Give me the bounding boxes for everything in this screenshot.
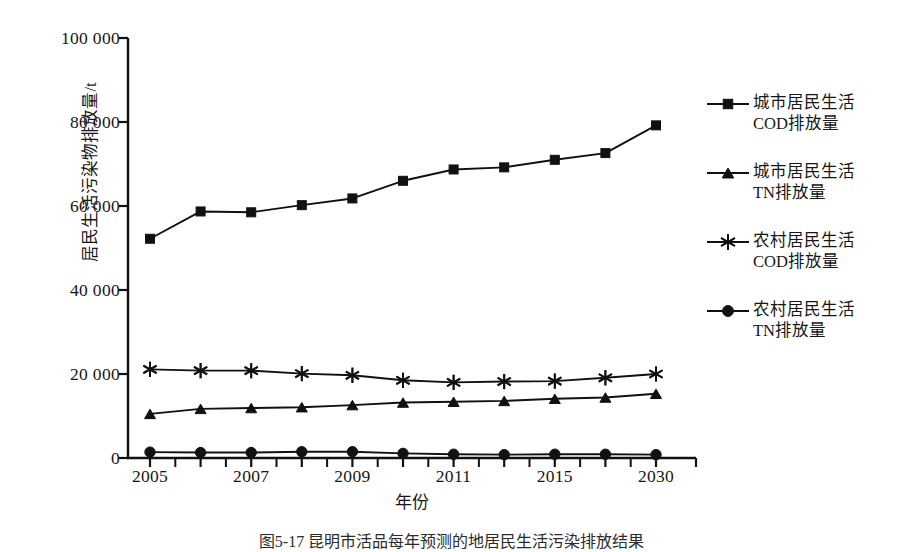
marker-square (449, 165, 458, 174)
marker-square (297, 201, 306, 210)
marker-circle (347, 447, 357, 457)
marker-square (601, 149, 610, 158)
legend-marker-star-icon (706, 232, 750, 252)
marker-square (146, 234, 155, 243)
axis-spine (128, 38, 696, 458)
legend-marker-square-icon (706, 94, 750, 114)
marker-circle (246, 447, 256, 457)
x-axis-tick-label: 2007 (233, 466, 269, 487)
x-axis-tick-label: 2015 (537, 466, 573, 487)
marker-circle (600, 449, 610, 459)
y-axis-tick-label: 100 000 (61, 28, 120, 49)
series-2 (145, 389, 662, 419)
marker-circle (651, 449, 661, 459)
marker-circle (448, 449, 458, 459)
chart-legend: 城市居民生活 COD排放量城市居民生活 TN排放量农村居民生活 COD排放量农村… (706, 92, 902, 368)
x-axis-tick-label: 2030 (638, 466, 674, 487)
marker-circle (550, 449, 560, 459)
x-axis-title: 年份 (128, 488, 696, 513)
legend-item[interactable]: 农村居民生活 TN排放量 (706, 299, 902, 341)
marker-circle (297, 447, 307, 457)
marker-square (500, 163, 509, 172)
legend-item[interactable]: 农村居民生活 COD排放量 (706, 230, 902, 272)
x-axis-tick-label: 2005 (132, 466, 168, 487)
chart-canvas (128, 38, 696, 458)
legend-marker-triangle-icon (706, 163, 750, 183)
marker-square (723, 99, 732, 108)
y-axis-title: 居民生活污染物排放量/t (77, 47, 101, 297)
legend-item[interactable]: 城市居民生活 TN排放量 (706, 161, 902, 203)
figure-caption: 图5-17 昆明市活品每年预测的地居民生活污染排放结果 (0, 528, 903, 552)
y-axis-tick-labels: 020 00040 00060 00080 000100 000 (0, 38, 120, 458)
x-axis-tick-label: 2011 (436, 466, 472, 487)
marker-square (399, 176, 408, 185)
legend-label: 农村居民生活 TN排放量 (753, 299, 855, 341)
marker-square (550, 155, 559, 164)
legend-item[interactable]: 城市居民生活 COD排放量 (706, 92, 902, 134)
marker-square (247, 208, 256, 217)
legend-label: 城市居民生活 TN排放量 (753, 161, 855, 203)
plot-area (128, 38, 696, 458)
legend-label: 城市居民生活 COD排放量 (753, 92, 855, 134)
legend-label: 农村居民生活 COD排放量 (753, 230, 855, 272)
marker-square (348, 194, 357, 203)
y-axis-tick-label: 20 000 (70, 364, 120, 385)
series-1 (146, 121, 661, 243)
marker-circle (398, 448, 408, 458)
y-axis-tick-label: 0 (111, 448, 120, 469)
marker-square (196, 207, 205, 216)
marker-square (652, 121, 661, 130)
legend-marker-circle-icon (706, 301, 750, 321)
series-3 (143, 362, 662, 390)
marker-circle (195, 447, 205, 457)
marker-circle (723, 306, 734, 317)
x-axis-tick-label: 2009 (334, 466, 370, 487)
marker-circle (145, 447, 155, 457)
marker-circle (499, 449, 509, 459)
